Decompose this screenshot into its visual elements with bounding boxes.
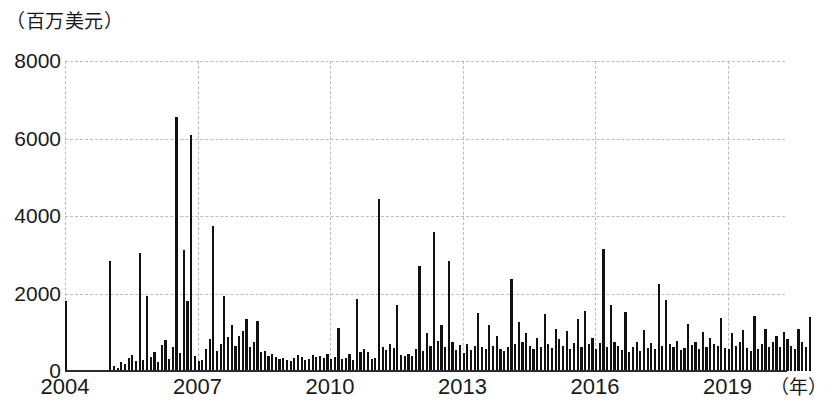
x-axis-tick-label: 2016	[571, 376, 620, 398]
bar	[389, 344, 391, 371]
bar	[485, 349, 487, 371]
y-axis-tick-labels: 02000400060008000	[0, 0, 61, 401]
bar	[503, 351, 505, 371]
bar	[418, 266, 420, 371]
bar	[444, 347, 446, 371]
bar	[220, 344, 222, 371]
bar	[636, 342, 638, 371]
plot-area	[65, 61, 785, 371]
bar	[521, 342, 523, 371]
bar	[687, 324, 689, 371]
bar	[139, 253, 141, 371]
bar	[242, 331, 244, 371]
bar	[205, 349, 207, 371]
bar	[613, 342, 615, 371]
bar	[190, 135, 192, 371]
bar	[742, 330, 744, 371]
bar	[540, 347, 542, 371]
bar	[647, 348, 649, 371]
bar	[544, 314, 546, 371]
x-axis-tick-label: 2013	[438, 376, 487, 398]
bar	[153, 352, 155, 371]
x-axis-unit-label: （年）	[770, 376, 827, 398]
bar	[602, 249, 604, 371]
bar	[223, 296, 225, 371]
y-axis-tick-label: 6000	[14, 128, 61, 149]
bar	[400, 355, 402, 371]
bar	[234, 346, 236, 371]
bar	[717, 346, 719, 371]
bar	[772, 342, 774, 371]
bar	[367, 352, 369, 371]
bar	[606, 347, 608, 371]
bar	[451, 342, 453, 371]
bar	[245, 319, 247, 371]
bar	[650, 343, 652, 371]
bar	[786, 339, 788, 371]
bar	[794, 349, 796, 371]
bar	[109, 261, 111, 371]
bar	[529, 346, 531, 371]
bar	[624, 312, 626, 371]
bar	[179, 353, 181, 371]
bar	[691, 345, 693, 371]
bar	[415, 349, 417, 371]
bar	[746, 348, 748, 371]
bar	[617, 346, 619, 371]
bar	[393, 348, 395, 371]
bar	[463, 353, 465, 371]
bar	[216, 351, 218, 371]
bar	[577, 319, 579, 371]
bar	[720, 318, 722, 371]
bar	[348, 354, 350, 371]
bar	[558, 339, 560, 371]
bar	[694, 342, 696, 371]
bar	[797, 329, 799, 371]
bar	[477, 313, 479, 371]
bar	[672, 347, 674, 371]
bar	[238, 336, 240, 371]
bar	[359, 352, 361, 371]
bar	[750, 351, 752, 371]
x-axis-tick-label: 2010	[306, 376, 355, 398]
bar	[65, 301, 67, 371]
bar	[212, 226, 214, 371]
x-axis-tick-label: 2004	[41, 376, 90, 398]
bar	[731, 333, 733, 371]
bar	[249, 347, 251, 371]
bar	[253, 342, 255, 371]
bar	[753, 316, 755, 371]
bar	[768, 347, 770, 371]
bar	[422, 351, 424, 371]
bar	[805, 347, 807, 371]
bar	[172, 347, 174, 371]
bar	[433, 232, 435, 372]
bar	[775, 336, 777, 371]
bar-chart: （百万美元） 02000400060008000 200420072010201…	[0, 0, 833, 401]
bar	[757, 349, 759, 371]
bar	[724, 348, 726, 371]
bar	[194, 356, 196, 371]
bar	[326, 354, 328, 371]
bar	[510, 279, 512, 371]
bar	[209, 339, 211, 371]
bar	[426, 333, 428, 371]
bar	[496, 336, 498, 371]
bar	[470, 350, 472, 371]
bar	[175, 117, 177, 371]
bar	[315, 357, 317, 371]
bar	[319, 356, 321, 371]
bar	[632, 347, 634, 371]
bar	[683, 348, 685, 371]
bar	[429, 346, 431, 371]
bar	[260, 352, 262, 371]
y-axis-tick-label: 2000	[14, 283, 61, 304]
bar	[256, 321, 258, 371]
bar-series	[65, 61, 785, 371]
bar	[665, 300, 667, 371]
bar	[536, 338, 538, 371]
bar	[264, 351, 266, 371]
bar	[713, 344, 715, 371]
bar	[150, 357, 152, 371]
bar	[437, 341, 439, 371]
